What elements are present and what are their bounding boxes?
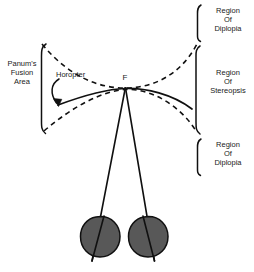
- label-horopter: Horopter: [56, 70, 98, 79]
- label-region-of-diplopia-top-line3: Diplopia: [204, 24, 252, 33]
- label-region-of-stereopsis-line1: Region: [202, 68, 254, 77]
- label-fixation-point: F: [118, 73, 132, 82]
- panum-lower-boundary-curve: [44, 89, 196, 131]
- label-region-of-diplopia-top-line1: Region: [204, 6, 252, 15]
- bracket-region-of-diplopia-top: [197, 5, 201, 42]
- horopter-arrow-head: [54, 99, 62, 107]
- label-panums-fusion-area-line2: Fusion: [2, 68, 42, 77]
- label-region-of-diplopia-bottom-line3: Diplopia: [204, 158, 252, 167]
- label-panums-fusion-area: Panum's Fusion Area: [2, 59, 42, 87]
- left-eye: [81, 217, 121, 258]
- horopter-diagram: Panum's Fusion Area Horopter F Region Of…: [0, 0, 254, 272]
- label-region-of-stereopsis-line3: Stereopsis: [202, 86, 254, 95]
- label-region-of-diplopia-bottom-line2: Of: [204, 149, 252, 158]
- diagram-canvas: [0, 0, 254, 272]
- label-region-of-diplopia-top-line2: Of: [204, 15, 252, 24]
- label-panums-fusion-area-line1: Panum's: [2, 59, 42, 68]
- bracket-region-of-stereopsis: [196, 46, 200, 134]
- label-region-of-stereopsis: Region Of Stereopsis: [202, 68, 254, 96]
- bracket-region-of-diplopia-bottom: [197, 139, 201, 176]
- label-region-of-stereopsis-line2: Of: [202, 77, 254, 86]
- label-region-of-diplopia-top: Region Of Diplopia: [204, 6, 252, 34]
- label-region-of-diplopia-bottom: Region Of Diplopia: [204, 140, 252, 168]
- label-panums-fusion-area-line3: Area: [2, 77, 42, 86]
- label-region-of-diplopia-bottom-line1: Region: [204, 140, 252, 149]
- bracket-panum-fusion-area: [41, 44, 46, 134]
- fixation-point-marker: [124, 87, 127, 90]
